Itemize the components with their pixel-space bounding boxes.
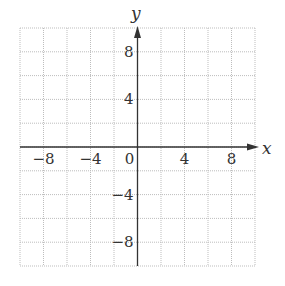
x-tick-label: −4 (79, 150, 101, 168)
x-tick-label: 8 (227, 150, 237, 168)
y-axis-label: y (130, 3, 141, 23)
x-tick-label: −8 (32, 150, 54, 168)
y-tick-label: 8 (124, 43, 134, 61)
x-tick-labels: −8−4048 (32, 150, 236, 168)
x-tick-label: 0 (125, 150, 135, 168)
x-tick-label: 4 (180, 150, 190, 168)
y-tick-label: 4 (124, 90, 134, 108)
y-tick-label: −8 (111, 233, 133, 251)
coordinate-plane: x y −8−4048 84−4−8 (0, 0, 285, 286)
x-axis-arrow-icon (247, 144, 259, 151)
axes (20, 26, 259, 266)
y-axis-arrow-icon (134, 26, 141, 38)
x-axis-label: x (262, 138, 272, 158)
y-tick-label: −4 (111, 186, 133, 204)
